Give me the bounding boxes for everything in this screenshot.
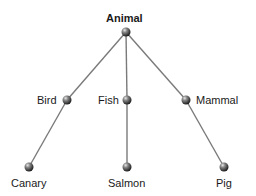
label-fish: Fish: [98, 94, 119, 106]
node-bird: [63, 96, 72, 105]
label-pig: Pig: [216, 177, 232, 189]
edge-animal-mammal: [126, 32, 186, 100]
label-bird: Bird: [37, 94, 57, 106]
label-animal: Animal: [106, 12, 143, 24]
edge-animal-fish: [126, 32, 127, 100]
label-canary: Canary: [11, 177, 46, 189]
label-mammal: Mammal: [196, 94, 238, 106]
edge-mammal-pig: [186, 100, 224, 167]
node-animal: [122, 28, 131, 37]
node-fish: [123, 96, 132, 105]
node-mammal: [182, 96, 191, 105]
edge-animal-bird: [67, 32, 126, 100]
edge-bird-canary: [29, 100, 67, 167]
label-salmon: Salmon: [108, 177, 145, 189]
node-salmon: [123, 163, 132, 172]
node-canary: [25, 163, 34, 172]
taxonomy-tree-diagram: Animal Bird Fish Mammal Canary Salmon Pi…: [0, 0, 256, 196]
node-pig: [220, 163, 229, 172]
